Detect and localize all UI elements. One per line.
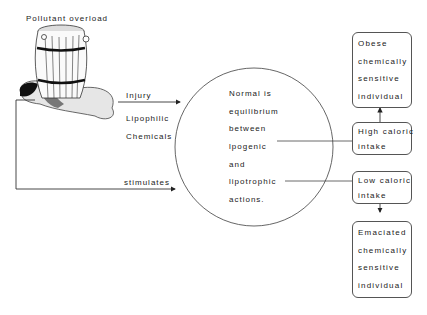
box-text: intake xyxy=(358,142,387,152)
box-text: individual xyxy=(358,92,403,102)
stimulates-label: stimulates xyxy=(124,178,170,188)
circle-line: between xyxy=(229,124,266,134)
circle-line: equilibrium xyxy=(229,107,279,117)
chemicals-label: Chemicals xyxy=(126,132,172,142)
box-text: sensitive xyxy=(358,74,400,84)
circle-line: lipotrophic xyxy=(229,177,276,187)
box-text: sensitive xyxy=(358,263,400,273)
high-caloric-box: High caloric intake xyxy=(352,122,412,155)
box-text: chemically xyxy=(358,57,407,67)
lipophilic-label: Lipophilic xyxy=(126,114,169,124)
emaciated-box: Emaciated chemically sensitive individua… xyxy=(352,221,412,298)
box-text: Emaciated xyxy=(358,228,407,238)
box-text: intake xyxy=(358,191,387,201)
pollutant-overload-title: Pollutant overload xyxy=(26,14,108,24)
box-text: High caloric xyxy=(358,127,414,137)
box-text: Low caloric xyxy=(358,176,411,186)
circle-line: lpogenic xyxy=(229,142,267,152)
low-caloric-box: Low caloric intake xyxy=(352,171,412,204)
circle-line: actions. xyxy=(229,195,265,205)
injury-label: Injury xyxy=(126,91,152,101)
barrel-icon xyxy=(20,25,114,119)
obese-box: Obese chemically sensitive individual xyxy=(352,32,412,108)
circle-line: Normal is xyxy=(229,89,272,99)
box-text: chemically xyxy=(358,246,407,256)
circle-line: and xyxy=(229,160,245,170)
box-text: individual xyxy=(358,281,403,291)
box-text: Obese xyxy=(358,39,388,49)
